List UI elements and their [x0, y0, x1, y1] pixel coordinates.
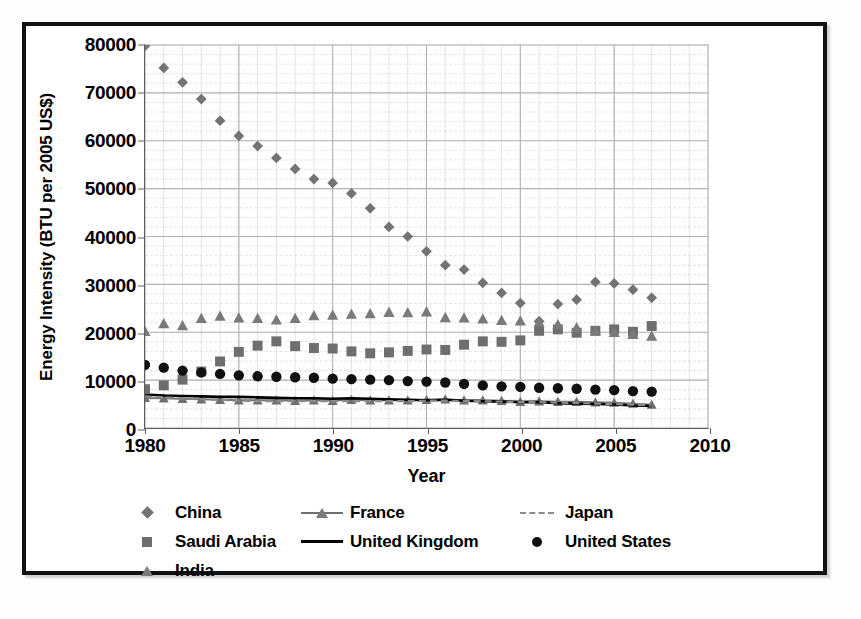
- y-tick-label: 70000: [85, 82, 145, 104]
- legend-label: China: [175, 503, 221, 523]
- x-axis-title: Year: [144, 466, 709, 487]
- y-tick-mark: [138, 45, 145, 46]
- legend-marker-dashed-line-icon: [516, 504, 558, 522]
- solid-line-icon: [301, 540, 343, 543]
- legend-label: Saudi Arabia: [175, 532, 276, 552]
- legend-item-united-states[interactable]: United States: [516, 532, 716, 552]
- y-tick-label: 10000: [85, 371, 145, 393]
- plot-area: 0100002000030000400005000060000700008000…: [144, 44, 709, 429]
- circle-icon: [532, 537, 542, 547]
- legend-label: India: [175, 561, 214, 581]
- y-tick-mark: [138, 141, 145, 142]
- x-tick-mark: [239, 428, 240, 434]
- x-tick-label: 1985: [219, 435, 260, 457]
- legend-marker-triangle-icon: [126, 562, 168, 580]
- x-tick-mark: [616, 428, 617, 434]
- legend-item-france[interactable]: France: [301, 503, 516, 523]
- y-tick-label: 20000: [85, 323, 145, 345]
- x-tick-label: 2005: [595, 435, 636, 457]
- x-tick-label: 1980: [124, 435, 165, 457]
- x-tick-label: 2000: [501, 435, 542, 457]
- y-tick-label: 60000: [85, 130, 145, 152]
- legend-marker-circle-icon: [516, 533, 558, 551]
- y-tick-label: 50000: [85, 178, 145, 200]
- y-tick-mark: [138, 285, 145, 286]
- legend-item-saudi-arabia[interactable]: Saudi Arabia: [126, 532, 301, 552]
- x-tick-mark: [710, 428, 711, 434]
- y-tick-label: 80000: [85, 34, 145, 56]
- dashed-line-icon: [520, 512, 554, 514]
- y-tick-mark: [138, 93, 145, 94]
- y-tick-mark: [138, 381, 145, 382]
- x-tick-label: 1995: [407, 435, 448, 457]
- legend-item-united-kingdom[interactable]: United Kingdom: [301, 532, 516, 552]
- chart-frame: Energy Intensity (BTU per 2005 US$) 0100…: [22, 22, 827, 575]
- x-tick-label: 2010: [689, 435, 730, 457]
- diamond-icon: [141, 506, 154, 519]
- legend-label: United Kingdom: [350, 532, 478, 552]
- legend-marker-diamond-icon: [126, 504, 168, 522]
- chart-page: Energy Intensity (BTU per 2005 US$) 0100…: [0, 0, 861, 619]
- legend-item-china[interactable]: China: [126, 503, 301, 523]
- series-canvas: [145, 45, 708, 428]
- legend-item-india[interactable]: India: [126, 561, 301, 581]
- legend-marker-square-icon: [126, 533, 168, 551]
- legend-marker-line-triangle-icon: [301, 504, 343, 522]
- x-tick-label: 1990: [313, 435, 354, 457]
- chart-legend: ChinaFranceJapanSaudi ArabiaUnited Kingd…: [126, 498, 726, 585]
- y-axis-title-text: Energy Intensity (BTU per 2005 US$): [37, 93, 57, 381]
- y-axis-title: Energy Intensity (BTU per 2005 US$): [34, 44, 60, 429]
- y-tick-mark: [138, 237, 145, 238]
- x-tick-mark: [428, 428, 429, 434]
- legend-label: Japan: [565, 503, 613, 523]
- y-tick-label: 40000: [85, 227, 145, 249]
- x-tick-mark: [522, 428, 523, 434]
- legend-item-japan[interactable]: Japan: [516, 503, 716, 523]
- triangle-icon: [141, 566, 153, 576]
- square-icon: [142, 537, 152, 547]
- line-triangle-icon: [301, 507, 343, 519]
- legend-marker-solid-line-icon: [301, 533, 343, 551]
- y-tick-mark: [138, 430, 145, 431]
- legend-label: United States: [565, 532, 671, 552]
- chart-area: Energy Intensity (BTU per 2005 US$) 0100…: [26, 26, 823, 571]
- legend-label: France: [350, 503, 405, 523]
- x-tick-mark: [333, 428, 334, 434]
- y-tick-label: 30000: [85, 275, 145, 297]
- y-tick-mark: [138, 189, 145, 190]
- x-tick-mark: [145, 428, 146, 434]
- y-tick-mark: [138, 333, 145, 334]
